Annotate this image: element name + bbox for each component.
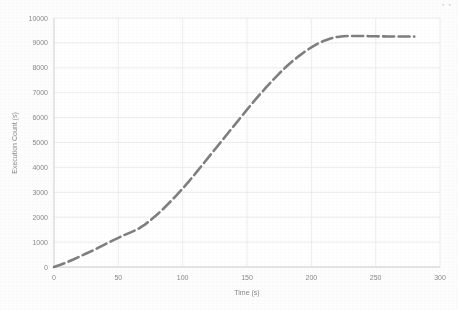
y-tick-label: 9000 [32,39,48,46]
x-axis-tick-labels: 050100150200250300 [52,274,446,281]
x-tick-label: 0 [52,274,56,281]
y-tick-label: 7000 [32,89,48,96]
y-axis-title: Execution Count (s) [11,112,19,173]
x-tick-label: 100 [177,274,189,281]
y-axis-tick-labels: 0100020003000400050006000700080009000100… [29,15,49,271]
x-axis-title: Time (s) [234,289,259,297]
execution-count-line-chart: 0100020003000400050006000700080009000100… [0,0,458,310]
y-tick-label: 4000 [32,164,48,171]
y-tick-label: 0 [44,264,48,271]
y-tick-label: 5000 [32,139,48,146]
x-tick-label: 150 [241,274,253,281]
page-corner-mark: ▪ ▪ [442,1,452,8]
chart-container: 0100020003000400050006000700080009000100… [0,0,458,310]
y-tick-label: 2000 [32,214,48,221]
y-tick-label: 8000 [32,64,48,71]
y-tick-label: 6000 [32,114,48,121]
y-tick-label: 3000 [32,189,48,196]
y-tick-label: 10000 [29,15,49,22]
y-tick-label: 1000 [32,239,48,246]
x-tick-label: 50 [114,274,122,281]
x-tick-label: 250 [370,274,382,281]
x-tick-label: 300 [434,274,446,281]
x-tick-label: 200 [305,274,317,281]
